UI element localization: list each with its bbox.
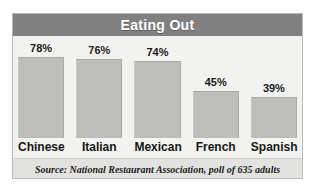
chart-screenshot: Eating Out 78%76%74%45%39% ChineseItalia… [0,0,315,191]
bar [18,57,64,139]
bar [251,97,297,138]
category-label: French [193,139,239,155]
category-axis: ChineseItalianMexicanFrenchSpanish [13,138,302,158]
bar-value-label: 78% [18,43,64,54]
bar-value-label: 45% [193,77,239,88]
chart-source-band: Source: National Restaurant Association,… [13,158,302,179]
chart-frame: Eating Out 78%76%74%45%39% ChineseItalia… [12,13,303,179]
bar-column: 39% [251,36,297,138]
bar-column: 45% [193,36,239,138]
bar-column: 76% [76,36,122,138]
bar-value-label: 76% [76,45,122,56]
plot-area: 78%76%74%45%39% [13,36,302,138]
category-label: Mexican [134,139,180,155]
bar-column: 78% [18,36,64,138]
category-label: Chinese [18,139,64,155]
bar-value-label: 74% [134,47,180,58]
chart-source-note: Source: National Restaurant Association,… [35,165,280,175]
bar [76,59,122,138]
bar-column: 74% [134,36,180,138]
category-label: Spanish [251,139,297,155]
chart-title: Eating Out [121,18,195,32]
chart-title-band: Eating Out [13,14,302,36]
bar [193,91,239,138]
bar [134,61,180,138]
bar-value-label: 39% [251,83,297,94]
category-label: Italian [76,139,122,155]
